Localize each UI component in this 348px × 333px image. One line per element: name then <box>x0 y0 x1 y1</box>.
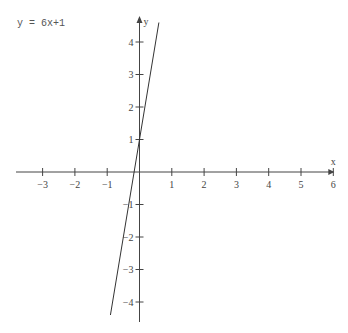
x-tick-label: 1 <box>169 179 174 190</box>
x-tick-label: −3 <box>37 179 48 190</box>
x-tick-label: 5 <box>299 179 304 190</box>
x-tick-label: 3 <box>234 179 239 190</box>
y-tick-label: 2 <box>129 102 134 113</box>
y-tick-label: 3 <box>129 69 134 80</box>
y-tick-label: 4 <box>129 37 134 48</box>
x-axis-label: x <box>331 156 336 167</box>
y-tick-label: 1 <box>129 134 134 145</box>
y-axis-label: y <box>144 16 149 27</box>
y-axis-arrow-icon <box>137 16 143 23</box>
x-tick-label: −1 <box>102 179 113 190</box>
series-line <box>110 23 158 316</box>
x-tick-label: 4 <box>266 179 271 190</box>
chart-plot-area: −3−2−1123456−4−3−2−11234xy <box>0 0 348 333</box>
x-tick-label: −2 <box>70 179 81 190</box>
y-tick-label: −3 <box>123 264 134 275</box>
x-tick-label: 6 <box>331 179 336 190</box>
y-tick-label: −4 <box>123 297 134 308</box>
x-tick-label: 2 <box>202 179 207 190</box>
